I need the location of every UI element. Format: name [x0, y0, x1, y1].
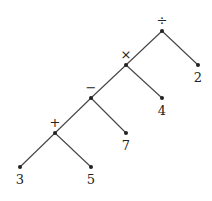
tree-canvas	[0, 0, 212, 201]
node-label-div: ÷	[157, 14, 168, 27]
tree-edge	[162, 31, 198, 65]
tree-edges	[20, 31, 198, 167]
node-label-n3: 3	[16, 173, 24, 186]
tree-node-n7	[124, 131, 128, 135]
tree-edge	[126, 65, 162, 98]
tree-edge	[91, 98, 126, 133]
tree-edge	[20, 133, 55, 167]
node-label-n5: 5	[87, 173, 95, 186]
tree-node-div	[160, 29, 164, 33]
tree-node-sub	[89, 96, 93, 100]
node-label-mul: ×	[121, 48, 132, 61]
node-label-n4: 4	[158, 104, 166, 117]
tree-node-mul	[124, 63, 128, 67]
tree-node-n5	[89, 165, 93, 169]
tree-nodes	[18, 29, 200, 169]
node-label-sub: −	[86, 81, 97, 94]
tree-node-add	[53, 131, 57, 135]
tree-edge	[55, 133, 91, 167]
node-label-add: +	[50, 116, 61, 129]
tree-node-n3	[18, 165, 22, 169]
node-label-n2: 2	[194, 71, 202, 84]
tree-node-n2	[196, 63, 200, 67]
node-label-n7: 7	[122, 139, 130, 152]
tree-node-n4	[160, 96, 164, 100]
